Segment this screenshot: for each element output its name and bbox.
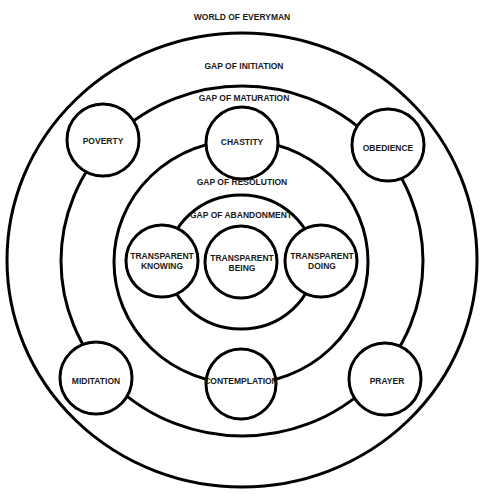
node-transparent-being: TRANSPARENT BEING (205, 226, 277, 298)
node-poverty-label: POVERTY (83, 136, 124, 146)
node-obedience-label: OBEDIENCE (363, 143, 414, 153)
node-poverty: POVERTY (67, 104, 139, 176)
node-transparent-being-line1: TRANSPARENT (210, 253, 274, 263)
label-gap-of-abandonment: GAP OF ABANDONMENT (190, 210, 293, 220)
node-chastity-label: CHASTITY (221, 137, 264, 147)
node-transparent-knowing-line2: KNOWING (141, 261, 183, 271)
node-contemplation-label: CONTEMPLATION (204, 376, 278, 386)
node-chastity: CHASTITY (206, 107, 278, 179)
node-transparent-doing: TRANSPARENT DOING (285, 225, 357, 297)
node-obedience: OBEDIENCE (352, 109, 424, 181)
node-prayer-label: PRAYER (370, 376, 405, 386)
node-transparent-knowing: TRANSPARENT KNOWING (126, 225, 198, 297)
node-transparent-doing-line1: TRANSPARENT (290, 251, 354, 261)
title-world-of-everyman: WORLD OF EVERYMAN (194, 12, 291, 22)
node-transparent-being-line2: BEING (229, 263, 256, 273)
label-gap-of-maturation: GAP OF MATURATION (199, 93, 290, 103)
node-contemplation: CONTEMPLATION (204, 349, 278, 419)
label-gap-of-initiation: GAP OF INITIATION (204, 61, 283, 71)
node-transparent-doing-line2: DOING (308, 261, 336, 271)
node-meditation-label: MIDITATION (72, 376, 120, 386)
node-transparent-knowing-line1: TRANSPARENT (130, 251, 194, 261)
concentric-gaps-diagram: WORLD OF EVERYMAN GAP OF INITIATION GAP … (0, 0, 484, 494)
node-prayer: PRAYER (349, 343, 421, 415)
node-meditation: MIDITATION (60, 342, 132, 414)
